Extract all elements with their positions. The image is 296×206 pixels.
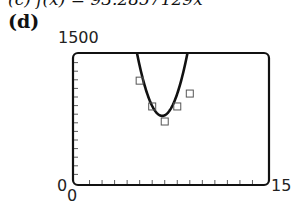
chart-plot — [0, 0, 296, 206]
plot-frame — [73, 53, 269, 185]
data-point — [186, 90, 193, 97]
data-point — [161, 118, 168, 125]
data-point — [174, 103, 181, 110]
quadratic-curve — [121, 0, 204, 116]
axis-ticks — [74, 63, 252, 184]
